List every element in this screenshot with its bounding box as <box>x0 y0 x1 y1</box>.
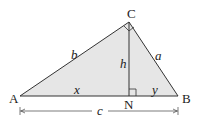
segment-label-x: x <box>73 82 80 97</box>
side-label-a: a <box>155 48 162 63</box>
vertex-label-a: A <box>9 91 19 106</box>
segment-label-y: y <box>150 82 158 97</box>
altitude-label-h: h <box>120 56 127 71</box>
vertex-label-n: N <box>124 97 134 112</box>
vertex-label-c: C <box>127 6 136 21</box>
triangle-diagram: A B C N b a h x y c <box>0 0 199 125</box>
vertex-label-b: B <box>182 91 191 106</box>
side-label-b: b <box>71 47 78 62</box>
dimension-label-c: c <box>97 103 103 118</box>
